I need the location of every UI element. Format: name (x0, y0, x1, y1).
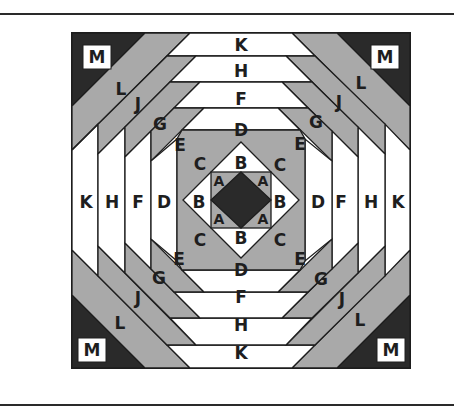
label-k: K (391, 192, 405, 212)
label-l: L (355, 310, 366, 330)
label-j: J (335, 92, 342, 112)
label-m: M (377, 47, 394, 67)
label-a: A (258, 173, 269, 189)
label-b: B (235, 228, 248, 248)
label-f: F (132, 192, 144, 212)
label-f: F (235, 287, 247, 307)
label-j: J (134, 94, 141, 114)
label-a: A (214, 173, 225, 189)
label-m: M (383, 340, 400, 360)
label-f: F (335, 192, 347, 212)
label-m: M (89, 47, 106, 67)
label-k: K (234, 35, 248, 55)
label-h: H (364, 192, 378, 212)
label-d: D (234, 260, 248, 280)
label-d: D (311, 192, 325, 212)
label-e: E (173, 249, 185, 269)
label-j: J (134, 288, 141, 308)
label-b: B (274, 192, 287, 212)
label-a: A (214, 211, 225, 227)
label-g: G (314, 269, 328, 289)
label-c: C (274, 230, 286, 250)
label-l: L (116, 79, 127, 99)
label-a: A (258, 211, 269, 227)
label-g: G (153, 114, 167, 134)
label-h: H (105, 192, 119, 212)
label-c: C (194, 154, 206, 174)
label-f: F (235, 89, 247, 109)
label-m: M (84, 340, 101, 360)
label-e: E (174, 135, 186, 155)
label-k: K (234, 343, 248, 363)
label-l: L (115, 313, 126, 333)
label-d: D (157, 192, 171, 212)
label-k: K (79, 192, 93, 212)
label-h: H (234, 315, 248, 335)
label-j: J (338, 289, 345, 309)
label-e: E (294, 249, 306, 269)
label-b: B (193, 192, 206, 212)
label-c: C (194, 230, 206, 250)
label-g: G (309, 112, 323, 132)
label-d: D (234, 120, 248, 140)
label-c: C (274, 155, 286, 175)
label-g: G (152, 268, 166, 288)
label-h: H (234, 61, 248, 81)
pineapple-quilt-block-diagram: M M M M K H F D B B D F H K K H F D B B … (0, 0, 454, 416)
label-b: B (235, 153, 248, 173)
label-e: E (294, 134, 306, 154)
label-l: L (356, 73, 367, 93)
